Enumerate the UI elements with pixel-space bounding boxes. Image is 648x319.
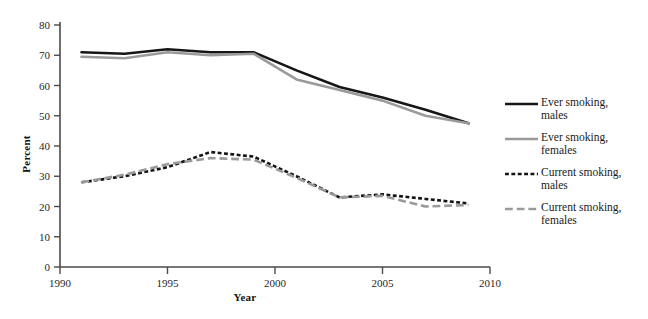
dashed-gray-line-icon: [505, 202, 538, 216]
y-axis-tick-label: 60: [39, 80, 51, 92]
chart-legend: Ever smoking, malesEver smoking, females…: [505, 96, 648, 236]
y-axis-title: Percent: [20, 114, 32, 194]
x-axis-tick-label: 1995: [157, 277, 180, 289]
x-axis-tick-label: 1990: [49, 277, 72, 289]
legend-item: Current smoking, males: [505, 166, 648, 195]
legend-item: Current smoking, females: [505, 201, 648, 230]
x-axis-tick-label: 2010: [479, 277, 502, 289]
y-axis-tick-label: 40: [39, 140, 51, 152]
series-line-1: [82, 52, 469, 123]
y-axis-tick-label: 50: [39, 110, 51, 122]
x-axis-tick-label: 2005: [372, 277, 395, 289]
y-axis-tick-label: 20: [39, 201, 51, 213]
y-axis-tick-label: 80: [39, 19, 51, 31]
x-axis-tick-label: 2000: [264, 277, 287, 289]
smoking-prevalence-line-chart: 0102030405060708019901995200020052010 Ye…: [0, 0, 648, 319]
solid-gray-line-icon: [505, 132, 538, 146]
legend-item-label: Ever smoking, males: [541, 96, 608, 122]
legend-item: Ever smoking, males: [505, 96, 648, 125]
dotted-black-line-icon: [505, 167, 538, 181]
y-axis-tick-label: 70: [39, 49, 51, 61]
legend-item-label: Ever smoking, females: [541, 131, 608, 157]
legend-item-label: Current smoking, females: [541, 201, 622, 227]
legend-item: Ever smoking, females: [505, 131, 648, 160]
legend-item-label: Current smoking, males: [541, 166, 622, 192]
series-line-2: [82, 152, 469, 203]
y-axis-tick-label: 30: [39, 170, 51, 182]
y-axis-tick-label: 10: [39, 231, 51, 243]
solid-black-line-icon: [505, 97, 538, 111]
series-line-0: [82, 49, 469, 123]
y-axis-tick-label: 0: [45, 261, 51, 273]
x-axis-title: Year: [0, 291, 490, 303]
